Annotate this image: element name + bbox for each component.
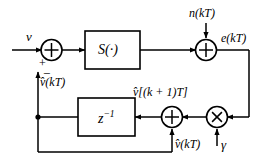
block-diagram-figure: v + − S(·) z−1 n(kT) e(kT) v̂(kT) v̂[(k …: [0, 0, 268, 160]
error-signal-label: e(kT): [221, 32, 246, 44]
nonlinearity-block-label: S(·): [98, 43, 118, 57]
delay-block-label: z−1: [98, 110, 115, 126]
feedback-estimate-bottom-label: v̂(kT): [175, 138, 200, 150]
gain-label: γ: [221, 138, 226, 151]
input-signal-label: v: [26, 30, 32, 43]
junction-dot: [35, 114, 40, 119]
next-state-estimate-label: v̂[(k + 1)T]: [133, 86, 188, 98]
noise-input-label: n(kT): [189, 7, 215, 19]
feedback-estimate-top-label: v̂(kT): [40, 76, 65, 88]
delay-block-exponent: −1: [103, 109, 114, 119]
